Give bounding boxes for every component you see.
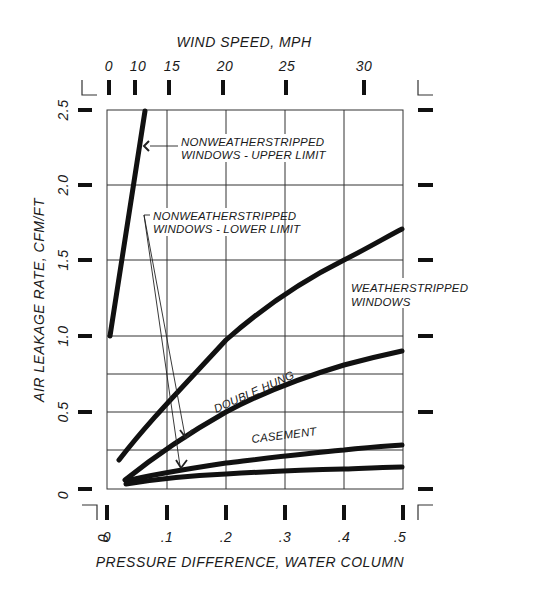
corner-zero: 0	[95, 534, 111, 542]
svg-text:0: 0	[55, 491, 71, 499]
svg-text:CASEMENT: CASEMENT	[251, 425, 318, 445]
svg-text:30: 30	[356, 58, 373, 74]
svg-text:WINDOWS - UPPER LIMIT: WINDOWS - UPPER LIMIT	[181, 149, 327, 161]
svg-text:WINDOWS: WINDOWS	[351, 296, 411, 308]
svg-text:WINDOWS - LOWER LIMIT: WINDOWS - LOWER LIMIT	[153, 223, 301, 235]
annotation-upper-limit: NONWEATHERSTRIPPED WINDOWS - UPPER LIMIT	[180, 134, 327, 162]
svg-text:NONWEATHERSTRIPPED: NONWEATHERSTRIPPED	[153, 210, 296, 222]
svg-text:0.5: 0.5	[55, 402, 71, 423]
top-axis-ticks	[109, 80, 364, 95]
curve-nonweatherstripped-upper	[110, 111, 145, 336]
svg-text:.1: .1	[161, 529, 174, 545]
svg-text:2.0: 2.0	[55, 175, 71, 197]
svg-text:10: 10	[130, 58, 147, 74]
svg-text:1.0: 1.0	[55, 326, 71, 347]
air-leakage-chart: WIND SPEED, MPH PRESSURE DIFFERENCE, WAT…	[0, 0, 537, 604]
left-axis-title: AIR LEAKAGE RATE, CFM/FT	[31, 197, 47, 403]
annotation-casement: CASEMENT	[251, 425, 318, 445]
top-axis-title: WIND SPEED, MPH	[176, 34, 311, 50]
left-tick-labels: 0 0.5 1.0 1.5 2.0 2.5	[55, 100, 71, 500]
svg-text:WEATHERSTRIPPED: WEATHERSTRIPPED	[351, 282, 468, 294]
svg-text:.2: .2	[220, 529, 233, 545]
svg-text:NONWEATHERSTRIPPED: NONWEATHERSTRIPPED	[181, 136, 324, 148]
svg-text:.4: .4	[338, 529, 351, 545]
svg-text:15: 15	[164, 58, 181, 74]
bottom-axis-title: PRESSURE DIFFERENCE, WATER COLUMN	[96, 554, 405, 570]
svg-text:25: 25	[278, 58, 296, 74]
svg-text:2.5: 2.5	[55, 100, 71, 122]
svg-text:.5: .5	[394, 529, 407, 545]
annotation-weatherstripped: WEATHERSTRIPPED WINDOWS	[350, 278, 470, 308]
bottom-axis-ticks	[107, 505, 403, 520]
annotation-double-hung: DOUBLE HUNG	[212, 369, 296, 415]
svg-text:.3: .3	[279, 529, 292, 545]
svg-text:20: 20	[216, 58, 234, 74]
top-tick-labels: 0 10 15 20 25 30	[105, 58, 372, 74]
bottom-tick-labels: 0 .1 .2 .3 .4 .5	[103, 529, 406, 545]
svg-text:0: 0	[105, 58, 113, 74]
curve-weatherstripped-upper	[119, 229, 402, 460]
annotation-lower-limit: NONWEATHERSTRIPPED WINDOWS - LOWER LIMIT	[152, 208, 301, 236]
svg-text:DOUBLE HUNG: DOUBLE HUNG	[212, 369, 296, 415]
svg-text:1.5: 1.5	[55, 250, 71, 271]
left-axis-ticks	[78, 110, 92, 489]
